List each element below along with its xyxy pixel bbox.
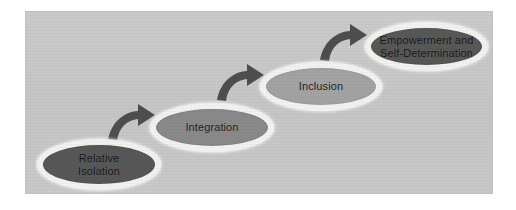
curved-arrow-up-right-icon — [214, 63, 266, 103]
stage-integration[interactable]: Integration — [150, 103, 274, 152]
diagram-panel: Relative Isolation Integration Inclusion… — [26, 12, 492, 193]
stage-empowerment-and-self-determination[interactable]: Empowerment and Self-Determination — [365, 22, 488, 71]
stage-label: Empowerment and Self-Determination — [374, 34, 480, 60]
curved-arrow-up-right-icon — [317, 23, 369, 63]
stage-label: Inclusion — [293, 80, 349, 93]
stage-label: Relative Isolation — [72, 152, 126, 178]
curved-arrow-up-right-icon — [105, 103, 157, 143]
diagram-canvas: Relative Isolation Integration Inclusion… — [0, 0, 516, 210]
stage-label: Integration — [179, 121, 244, 134]
stage-relative-isolation[interactable]: Relative Isolation — [37, 139, 161, 190]
stage-inclusion[interactable]: Inclusion — [260, 62, 382, 111]
